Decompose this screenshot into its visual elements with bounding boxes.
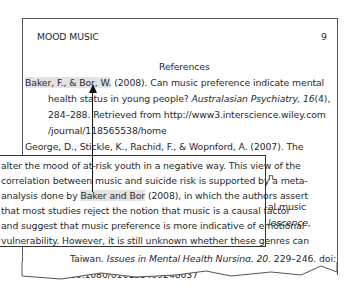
section-title: References [159,59,210,74]
reference-baker-line4: /journal/118565538/home [48,123,167,138]
callout-line: and suggest that music preference is mor… [1,218,304,233]
reference-baker-line2: health status in young people? Australas… [48,91,330,106]
text-callout-box: alter the mood of at-risk youth in a neg… [0,155,266,247]
reference-baker-line3: 284–288. Retrieved from http://www3.inte… [48,107,326,122]
running-head: MOOD MUSIC [37,29,99,44]
highlighted-citation: Baker and Bor [80,190,145,201]
reference-baker: Baker, F., & Bor, W. (2008). Can music p… [25,75,324,90]
page-number: 9 [321,29,327,44]
callout-line: correlation between music and suicide ri… [1,173,308,188]
callout-line: alter the mood of at-risk youth in a neg… [1,158,301,173]
callout-line: analysis done by Baker and Bor (2008), i… [1,188,308,203]
arrow-line [92,92,93,192]
arrow-up-icon [89,84,97,93]
callout-line: vulnerability. However, it is still unkn… [1,233,309,248]
torn-page-edge [21,262,339,286]
callout-line: that most studies reject the notion that… [1,203,290,218]
highlighted-citation: Baker, F., & Bor, W. [25,77,111,88]
reference-george: George, D., Stickle, K., Rachid, F., & W… [25,139,303,154]
